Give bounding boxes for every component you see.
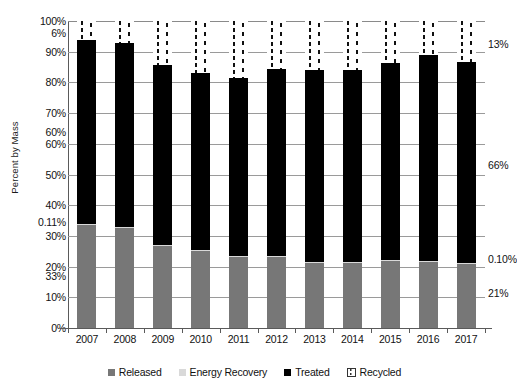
- bar-segment-recycled[interactable]: [457, 21, 476, 62]
- bar-segment-treated[interactable]: [191, 73, 210, 250]
- x-tick-mark: [106, 328, 107, 333]
- bar-segment-recycled[interactable]: [267, 21, 286, 69]
- y-tick-label: 50%: [20, 170, 66, 180]
- y-tick-label: 70%: [20, 108, 66, 118]
- bar-segment-recycled[interactable]: [381, 21, 400, 63]
- legend-label: Recycled: [360, 366, 402, 378]
- legend-item-recycled[interactable]: Recycled: [347, 366, 402, 378]
- bar-segment-treated[interactable]: [77, 40, 96, 224]
- legend-swatch-icon: [284, 369, 291, 376]
- bar-segment-recycled[interactable]: [305, 21, 324, 70]
- bar-group[interactable]: [457, 21, 476, 328]
- legend-swatch-icon: [179, 369, 186, 376]
- y-tick-label: 100%: [20, 16, 66, 26]
- x-tick-mark: [371, 328, 372, 333]
- bar-segment-energy-recovery[interactable]: [381, 260, 400, 261]
- bar-group[interactable]: [419, 21, 438, 328]
- bar-segment-energy-recovery[interactable]: [191, 250, 210, 251]
- bar-group[interactable]: [267, 21, 286, 328]
- y-tick-label: 90%: [20, 47, 66, 57]
- data-label-released: 21%: [488, 287, 508, 299]
- bar-segment-recycled[interactable]: [191, 21, 210, 73]
- data-label-recycled: 6%: [0, 27, 66, 39]
- bar-segment-released[interactable]: [153, 245, 172, 328]
- bar-segment-treated[interactable]: [457, 62, 476, 264]
- bar-segment-released[interactable]: [305, 262, 324, 328]
- bar-segment-recycled[interactable]: [77, 21, 96, 39]
- bar-segment-energy-recovery[interactable]: [305, 262, 324, 263]
- bar-segment-treated[interactable]: [267, 69, 286, 256]
- bar-segment-treated[interactable]: [305, 70, 324, 262]
- y-tick-label: 40%: [20, 200, 66, 210]
- bar-segment-recycled[interactable]: [153, 21, 172, 65]
- y-tick-label: 60%: [20, 139, 66, 149]
- bar-segment-released[interactable]: [115, 227, 134, 328]
- x-tick-mark: [68, 328, 69, 333]
- bar-segment-treated[interactable]: [229, 78, 248, 256]
- bar-group[interactable]: [381, 21, 400, 328]
- bar-segment-energy-recovery[interactable]: [343, 262, 362, 263]
- bar-group[interactable]: [191, 21, 210, 328]
- bar-segment-energy-recovery[interactable]: [153, 245, 172, 246]
- x-tick-mark: [258, 328, 259, 333]
- x-tick-mark: [220, 328, 221, 333]
- data-label-recycled: 13%: [488, 38, 508, 50]
- x-tick-label: 2017: [443, 333, 489, 345]
- bar-segment-energy-recovery[interactable]: [457, 263, 476, 264]
- x-tick-mark: [409, 328, 410, 333]
- x-tick-mark: [447, 328, 448, 333]
- bar-segment-released[interactable]: [191, 250, 210, 328]
- y-tick-label: 30%: [20, 231, 66, 241]
- bar-segment-released[interactable]: [381, 260, 400, 328]
- x-tick-mark: [295, 328, 296, 333]
- legend-label: Treated: [295, 366, 329, 378]
- x-tick-mark: [333, 328, 334, 333]
- bar-segment-recycled[interactable]: [419, 21, 438, 55]
- bar-segment-treated[interactable]: [381, 63, 400, 260]
- bar-segment-treated[interactable]: [419, 55, 438, 260]
- x-axis-line: [60, 328, 492, 329]
- data-label-treated: 60%: [0, 126, 66, 138]
- bar-segment-recycled[interactable]: [343, 21, 362, 70]
- bar-segment-energy-recovery[interactable]: [419, 261, 438, 262]
- legend-item-released[interactable]: Released: [108, 366, 162, 378]
- bar-segment-released[interactable]: [419, 261, 438, 328]
- y-axis-ticks: 100%90%80%70%60%50%40%30%20%10%0%: [12, 0, 66, 340]
- data-label-energy-recovery: 0.11%: [0, 216, 66, 228]
- bar-segment-recycled[interactable]: [229, 21, 248, 78]
- bar-group[interactable]: [77, 21, 96, 328]
- legend-item-treated[interactable]: Treated: [284, 366, 329, 378]
- bar-segment-energy-recovery[interactable]: [77, 224, 96, 225]
- bar-group[interactable]: [305, 21, 324, 328]
- legend-item-energy-recovery[interactable]: Energy Recovery: [179, 366, 268, 378]
- x-tick-mark: [182, 328, 183, 333]
- data-label-energy-recovery: 0.10%: [488, 253, 517, 265]
- x-tick-mark: [144, 328, 145, 333]
- bar-segment-energy-recovery[interactable]: [229, 256, 248, 257]
- data-label-treated: 66%: [488, 159, 508, 171]
- x-tick-mark: [485, 328, 486, 333]
- bar-segment-energy-recovery[interactable]: [267, 256, 286, 257]
- legend-label: Energy Recovery: [190, 366, 268, 378]
- bar-segment-energy-recovery[interactable]: [115, 227, 134, 228]
- bar-group[interactable]: [115, 21, 134, 328]
- bar-group[interactable]: [153, 21, 172, 328]
- bar-segment-released[interactable]: [229, 256, 248, 328]
- bar-segment-recycled[interactable]: [115, 21, 134, 43]
- bar-group[interactable]: [343, 21, 362, 328]
- y-tick-label: 10%: [20, 292, 66, 302]
- bar-segment-released[interactable]: [267, 256, 286, 328]
- plot-area: [68, 21, 485, 328]
- bar-segment-released[interactable]: [457, 264, 476, 328]
- bar-segment-released[interactable]: [343, 263, 362, 328]
- y-tick-label: 80%: [20, 77, 66, 87]
- bar-segment-treated[interactable]: [343, 70, 362, 262]
- legend-swatch-icon: [108, 369, 115, 376]
- bar-group[interactable]: [229, 21, 248, 328]
- bar-segment-treated[interactable]: [153, 65, 172, 245]
- bar-segment-treated[interactable]: [115, 43, 134, 227]
- chart-legend: ReleasedEnergy RecoveryTreatedRecycled: [0, 362, 509, 382]
- bar-segment-released[interactable]: [77, 224, 96, 328]
- legend-swatch-icon: [347, 368, 356, 377]
